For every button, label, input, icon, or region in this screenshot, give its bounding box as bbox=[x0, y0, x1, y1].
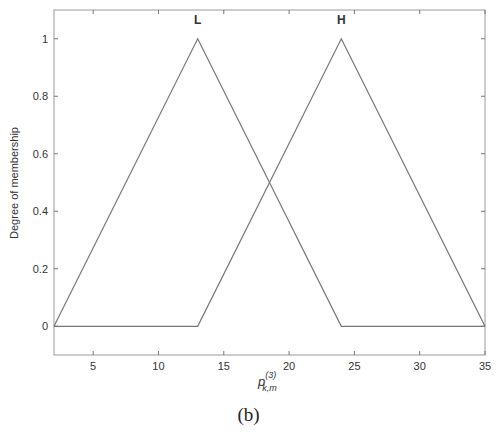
x-axis-label: p(3)k,m bbox=[257, 370, 277, 393]
x-tick-label: 25 bbox=[348, 360, 360, 372]
x-tick-label: 30 bbox=[414, 360, 426, 372]
membership-function-chart: LH 510152025303500.20.40.60.81 Degree of… bbox=[0, 0, 497, 439]
y-tick-label: 0.2 bbox=[33, 263, 48, 275]
x-tick-label: 20 bbox=[283, 360, 295, 372]
x-tick-label: 5 bbox=[90, 360, 96, 372]
x-axis-label-sup: (3) bbox=[265, 370, 276, 380]
y-tick-label: 0.6 bbox=[33, 148, 48, 160]
y-tick-label: 0 bbox=[42, 320, 48, 332]
figure-caption: (b) bbox=[0, 404, 497, 426]
x-tick-label: 35 bbox=[479, 360, 491, 372]
series-label-l: L bbox=[194, 13, 201, 27]
y-tick-label: 0.4 bbox=[33, 205, 48, 217]
series-label-h: H bbox=[337, 13, 346, 27]
x-tick-label: 10 bbox=[152, 360, 164, 372]
y-tick-label: 0.8 bbox=[33, 90, 48, 102]
x-axis-label-sub: k,m bbox=[262, 383, 277, 393]
y-tick-label: 1 bbox=[42, 33, 48, 45]
x-tick-label: 15 bbox=[218, 360, 230, 372]
y-axis-label: Degree of membership bbox=[8, 127, 20, 239]
